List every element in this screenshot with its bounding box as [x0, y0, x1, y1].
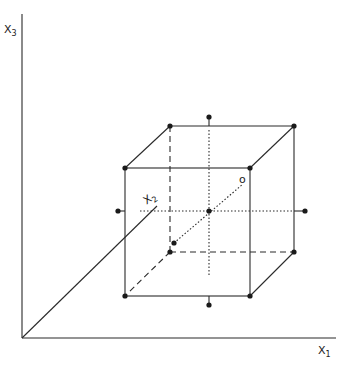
origin-label: o	[239, 173, 246, 186]
x1-axis-label: X1	[318, 344, 331, 359]
cube-front-face	[125, 168, 250, 296]
center-point	[206, 208, 211, 213]
center-axes-dotted	[140, 130, 294, 275]
x2-axis	[22, 206, 157, 338]
x3-axis-label: X3	[4, 23, 17, 38]
cube-diagram: X3 X1 X2 o	[0, 0, 347, 366]
